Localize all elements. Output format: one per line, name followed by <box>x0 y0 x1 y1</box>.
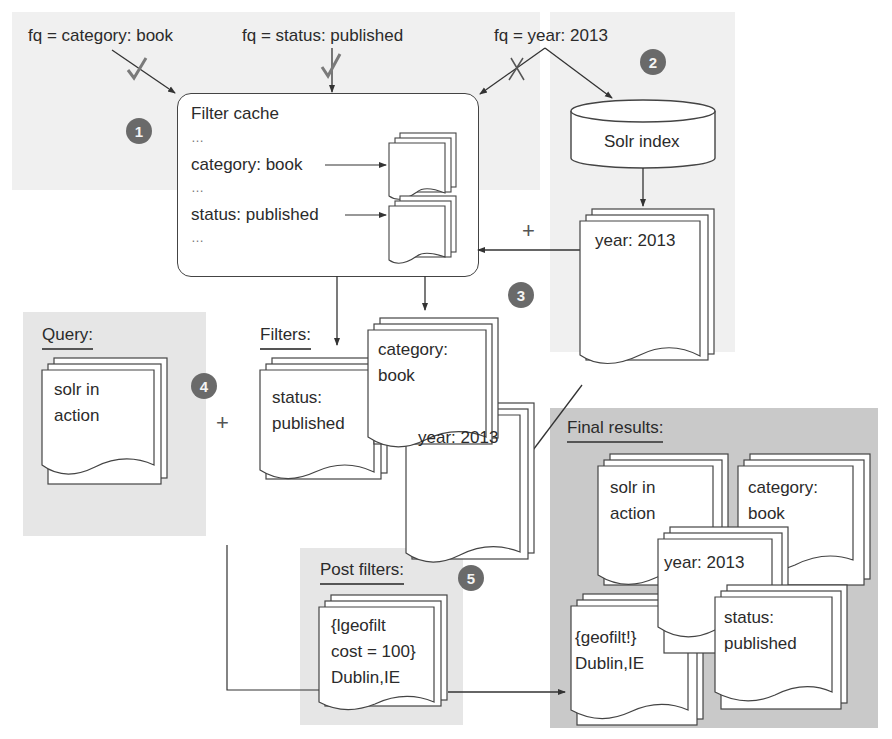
fq-category-label: fq = category: book <box>28 26 173 46</box>
final-doc-status-text: status: published <box>724 605 797 657</box>
query-doc-text: solr in action <box>54 377 99 429</box>
cache-doc-category <box>389 133 456 199</box>
post-filters-heading: Post filters: <box>320 560 404 585</box>
solr-result-doc-text: year: 2013 <box>595 228 675 254</box>
filter-cache-ellipsis: … <box>191 130 204 145</box>
filter-cache-ellipsis: … <box>191 230 204 245</box>
filter-doc-status-text: status: published <box>272 385 345 437</box>
step-badge-2: 2 <box>640 49 666 75</box>
final-results-heading: Final results: <box>567 418 663 443</box>
final-doc-geofilt-text: {geofilt!} Dublin,IE <box>575 625 644 677</box>
filter-cache-title: Filter cache <box>191 104 279 124</box>
filter-doc-category-text: category: book <box>378 337 448 389</box>
filters-heading: Filters: <box>260 325 311 350</box>
filter-cache-entry-status: status: published <box>191 205 319 225</box>
final-doc-category-text: category: book <box>748 475 818 527</box>
fq-status-label: fq = status: published <box>242 26 403 46</box>
solr-index-label: Solr index <box>604 132 680 152</box>
fq-year-label: fq = year: 2013 <box>494 26 608 46</box>
plus-operator: + <box>216 410 229 436</box>
final-doc-year-text: year: 2013 <box>664 550 744 576</box>
check-mark-icon <box>128 58 146 78</box>
step-badge-4: 4 <box>191 373 217 399</box>
check-mark-icon <box>322 54 340 76</box>
step-badge-1: 1 <box>126 118 152 144</box>
x-mark-icon <box>509 58 524 80</box>
step-badge-5: 5 <box>458 565 484 591</box>
filter-cache-ellipsis: … <box>191 180 204 195</box>
plus-operator: + <box>522 218 535 244</box>
final-doc-solr-text: solr in action <box>610 475 655 527</box>
cache-doc-status <box>389 196 456 263</box>
filter-cache-entry-category: category: book <box>191 155 303 175</box>
query-heading: Query: <box>42 325 93 350</box>
filter-doc-year-text: year: 2013 <box>418 425 498 451</box>
post-filter-doc-text: {lgeofilt cost = 100} Dublin,IE <box>331 613 416 691</box>
step-badge-3: 3 <box>508 282 534 308</box>
